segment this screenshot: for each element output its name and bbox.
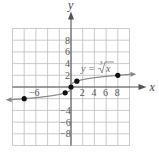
axes <box>13 12 147 146</box>
curve-arrow-left-icon <box>6 97 12 102</box>
data-point <box>22 96 27 101</box>
y-tick-label: 8 <box>65 35 70 46</box>
equation-label: y = 3 x <box>80 60 114 74</box>
y-tick-label: 4 <box>65 58 70 69</box>
data-point <box>74 79 79 84</box>
curve-arrow-right-icon <box>130 72 136 77</box>
x-axis-arrow-icon <box>139 84 147 90</box>
y-axis-arrow-icon <box>68 12 74 20</box>
x-tick-label: 8 <box>115 87 120 98</box>
x-tick-label: 4 <box>91 87 96 98</box>
y-tick-label: 2 <box>65 70 70 81</box>
x-tick-label: 2 <box>80 87 85 98</box>
equation-lhs: y = <box>80 63 95 74</box>
radical-index: 3 <box>99 60 103 66</box>
data-point <box>63 90 68 95</box>
cube-root-graph: −624688642−4−6−8 x y y = 3 x <box>0 0 159 156</box>
x-axis-label: x <box>149 80 156 94</box>
y-tick-label: −4 <box>60 105 71 116</box>
radicand: x <box>105 63 111 74</box>
data-point <box>68 84 73 89</box>
x-tick-label: 6 <box>103 87 108 98</box>
y-tick-label: 6 <box>65 46 70 57</box>
y-tick-label: −6 <box>60 117 71 128</box>
y-axis-label: y <box>67 0 74 12</box>
y-tick-label: −8 <box>60 128 71 139</box>
data-point <box>115 73 120 78</box>
x-tick-label: −6 <box>29 87 40 98</box>
